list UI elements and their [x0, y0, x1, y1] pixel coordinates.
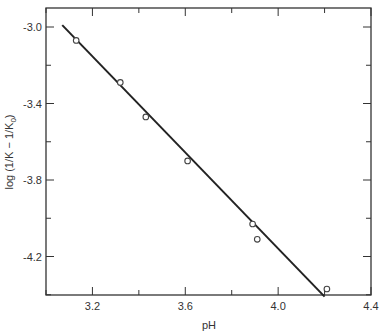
y-axis-label: log (1/K − 1/K0) [3, 114, 18, 189]
plot-frame [46, 8, 371, 295]
fit-line [62, 25, 324, 297]
data-point [324, 286, 330, 292]
x-tick-label: 3.6 [178, 300, 193, 312]
data-point [185, 158, 191, 164]
x-axis: 3.23.64.04.4 [46, 8, 379, 312]
y-axis: -3.0-3.4-3.8-4.2 [23, 21, 371, 295]
x-tick-label: 4.4 [363, 300, 378, 312]
x-tick-label: 4.0 [270, 300, 285, 312]
data-point [143, 114, 149, 120]
x-tick-label: 3.2 [85, 300, 100, 312]
x-axis-label: pH [202, 319, 216, 331]
y-tick-label: -3.0 [23, 21, 42, 33]
data-point [117, 80, 123, 86]
data-point [250, 221, 256, 227]
y-tick-label: -3.8 [23, 174, 42, 186]
data-point [73, 38, 79, 44]
data-series [62, 25, 329, 297]
y-tick-label: -4.2 [23, 251, 42, 263]
y-tick-label: -3.4 [23, 98, 42, 110]
data-point [254, 236, 260, 242]
chart: 3.23.64.04.4 -3.0-3.4-3.8-4.2 pH log (1/… [0, 0, 381, 335]
